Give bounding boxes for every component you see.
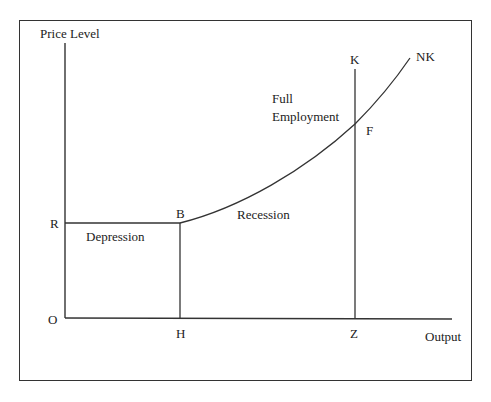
supply-curve-BNK — [180, 58, 410, 223]
full-employment-label-line2: Employment — [272, 110, 339, 123]
point-H-label: H — [176, 327, 185, 340]
point-K-label: K — [350, 53, 359, 66]
point-F-label: F — [366, 124, 373, 137]
curve-NK-label: NK — [416, 50, 435, 63]
depression-region-label: Depression — [86, 230, 145, 243]
x-axis — [65, 318, 452, 319]
point-R-label: R — [50, 217, 59, 230]
full-employment-label-line1: Full — [272, 92, 293, 105]
point-Z-label: Z — [350, 327, 358, 340]
origin-label: O — [48, 313, 57, 326]
x-axis-label: Output — [425, 330, 461, 343]
point-B-label: B — [176, 207, 185, 220]
y-axis-label: Price Level — [40, 27, 100, 40]
recession-region-label: Recession — [237, 208, 290, 221]
